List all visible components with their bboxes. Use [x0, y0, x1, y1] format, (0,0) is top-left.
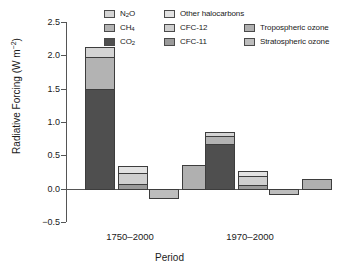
- bar-stratospheric-ozone: [269, 22, 299, 222]
- y-axis-tick-labels: 2.52.01.51.00.50.0−0.5: [22, 22, 60, 222]
- y-axis-tick-label: 1.0: [47, 118, 60, 127]
- bar-stratospheric-ozone: [149, 22, 179, 222]
- bar-segment: [149, 189, 179, 199]
- legend-label-other-halocarbons: Other halocarbons: [180, 9, 244, 18]
- x-axis-tick-label: 1970–2000: [226, 232, 274, 242]
- bar-segment: [205, 132, 235, 137]
- bar-segment: [269, 189, 299, 196]
- bar-segment: [85, 89, 115, 190]
- legend-item-other-halocarbons: Other halocarbons: [164, 8, 244, 19]
- y-axis-tick: [61, 155, 66, 156]
- y-axis-tick-label: 0.0: [47, 184, 60, 193]
- bar-greenhouse-gases: [205, 22, 235, 222]
- y-axis-tick-label: 0.5: [47, 151, 60, 160]
- y-axis-tick-label: −0.5: [42, 218, 60, 227]
- y-axis-tick-label: 2.0: [47, 51, 60, 60]
- y-axis-line: [66, 22, 67, 222]
- legend-label-n2o: N2O: [120, 9, 135, 19]
- bar-segment: [85, 47, 115, 58]
- bar-segment: [238, 176, 268, 186]
- bar-halocarbons: [238, 22, 268, 222]
- bar-segment: [118, 173, 148, 185]
- radiative-forcing-figure: N2O CH4 CO2 Other halocarbons CFC-12 CFC…: [0, 0, 339, 273]
- y-axis-tick-label: 1.5: [47, 84, 60, 93]
- y-axis-title-main: Radiative Forcing (W m: [11, 49, 22, 153]
- y-axis-tick-label: 2.5: [47, 18, 60, 27]
- x-axis-title: Period: [0, 252, 339, 263]
- y-axis-tick: [61, 222, 66, 223]
- bar-greenhouse-gases: [85, 22, 115, 222]
- bar-segment: [85, 57, 115, 90]
- bar-halocarbons: [118, 22, 148, 222]
- bar-segment: [118, 166, 148, 174]
- y-axis-title-exponent: −2: [10, 41, 17, 49]
- bar-segment: [205, 136, 235, 145]
- y-axis-tick: [61, 89, 66, 90]
- legend-item-n2o: N2O: [104, 8, 135, 19]
- plot-area: [66, 22, 320, 222]
- y-axis-tick: [61, 22, 66, 23]
- bar-segment: [205, 144, 235, 190]
- y-axis-tick: [61, 55, 66, 56]
- bar-segment: [302, 179, 332, 190]
- y-axis-tick: [61, 122, 66, 123]
- legend-swatch-n2o: [104, 10, 115, 18]
- bar-tropospheric-ozone: [302, 22, 332, 222]
- y-axis-tick: [61, 189, 66, 190]
- bar-segment: [238, 171, 268, 177]
- x-axis-tick-label: 1750–2000: [106, 232, 154, 242]
- legend-swatch-other-halocarbons: [164, 10, 175, 18]
